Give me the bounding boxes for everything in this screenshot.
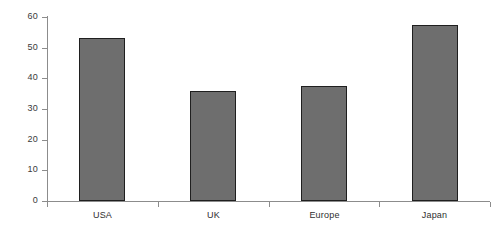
bar bbox=[190, 91, 236, 201]
y-tick-label-wrap: 10 bbox=[0, 165, 38, 175]
y-tick-label-wrap: 20 bbox=[0, 135, 38, 145]
y-tick-label: 0 bbox=[4, 196, 38, 205]
y-tick-mark bbox=[42, 140, 47, 141]
bar bbox=[79, 38, 125, 201]
y-tick-label: 10 bbox=[4, 165, 38, 174]
y-tick-label: 20 bbox=[4, 135, 38, 144]
y-tick-label: 60 bbox=[4, 12, 38, 21]
bar bbox=[301, 86, 347, 201]
y-tick-mark bbox=[42, 109, 47, 110]
y-tick-label-wrap: 0 bbox=[0, 196, 38, 206]
y-tick-mark bbox=[42, 170, 47, 171]
x-tick-mark bbox=[269, 202, 270, 207]
x-tick-label: UK bbox=[158, 211, 269, 220]
y-tick-label: 30 bbox=[4, 104, 38, 113]
x-tick-label: Europe bbox=[269, 211, 380, 220]
y-tick-mark bbox=[42, 78, 47, 79]
x-tick-label: Japan bbox=[379, 211, 490, 220]
y-tick-label-wrap: 60 bbox=[0, 12, 38, 22]
x-tick-mark bbox=[158, 202, 159, 207]
y-axis-line bbox=[47, 16, 48, 202]
y-tick-label: 50 bbox=[4, 43, 38, 52]
y-tick-label-wrap: 30 bbox=[0, 104, 38, 114]
y-tick-mark bbox=[42, 17, 47, 18]
x-tick-mark bbox=[490, 202, 491, 207]
plot-area: 0102030405060 USAUKEuropeJapan bbox=[0, 0, 499, 237]
y-tick-mark bbox=[42, 48, 47, 49]
x-tick-label: USA bbox=[47, 211, 158, 220]
x-tick-mark bbox=[379, 202, 380, 207]
y-tick-label: 40 bbox=[4, 73, 38, 82]
bar-chart: 0102030405060 USAUKEuropeJapan bbox=[0, 0, 499, 237]
x-tick-mark bbox=[47, 202, 48, 207]
bar bbox=[412, 25, 458, 201]
y-tick-label-wrap: 40 bbox=[0, 73, 38, 83]
y-tick-label-wrap: 50 bbox=[0, 43, 38, 53]
